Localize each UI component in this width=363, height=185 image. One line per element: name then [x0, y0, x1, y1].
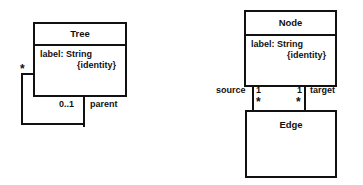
uml-diagram-canvas: Tree label: String {identity} * 0..1 par… — [0, 0, 363, 185]
multiplicity-source-edge-end: * — [256, 96, 261, 108]
association-line-source — [252, 85, 254, 112]
multiplicity-tree-source: * — [20, 63, 25, 75]
multiplicity-tree-target: 0..1 — [59, 100, 74, 109]
tree-loop-riser — [83, 95, 85, 127]
class-box-node[interactable]: Node label: String {identity} — [244, 10, 337, 87]
multiplicity-source-node-end: 1 — [256, 86, 261, 95]
role-name-parent: parent — [90, 100, 118, 109]
role-name-target: target — [310, 86, 335, 95]
multiplicity-target-edge-end: * — [296, 96, 301, 108]
association-line-target — [304, 85, 306, 112]
attribute-constraint-identity: {identity} — [251, 50, 330, 61]
attribute-label-string: label: String — [251, 39, 330, 50]
class-box-tree[interactable]: Tree label: String {identity} — [33, 22, 127, 97]
class-attributes-node: label: String {identity} — [246, 36, 335, 85]
class-name-tree: Tree — [35, 24, 125, 46]
multiplicity-target-node-end: 1 — [297, 86, 302, 95]
role-name-source: source — [216, 86, 246, 95]
class-name-edge: Edge — [247, 112, 335, 138]
attribute-label-string: label: String — [40, 49, 120, 60]
class-box-edge[interactable]: Edge — [245, 110, 337, 178]
attribute-constraint-identity: {identity} — [40, 60, 120, 71]
class-attributes-tree: label: String {identity} — [35, 46, 125, 95]
class-name-node: Node — [246, 12, 335, 36]
